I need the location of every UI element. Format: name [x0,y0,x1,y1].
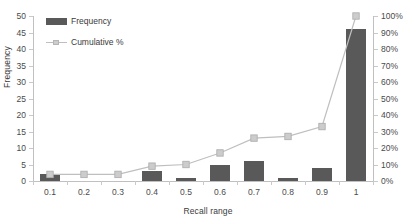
cumulative-marker [149,163,155,169]
legend-label-frequency: Frequency [71,16,111,26]
cumulative-marker [115,171,121,177]
cumulative-marker [285,133,291,139]
cumulative-marker [81,171,87,177]
pareto-chart: Frequency Recall range 05101520253035404… [0,0,416,223]
cumulative-marker [47,171,53,177]
cumulative-marker [319,123,325,129]
chart-legend: Frequency Cumulative % [46,14,123,56]
legend-label-cumulative: Cumulative % [71,37,123,47]
bar-swatch-icon [46,18,67,25]
cumulative-marker [251,135,257,141]
cumulative-marker [353,13,359,19]
legend-item-frequency: Frequency [46,14,123,28]
line-marker-swatch-icon [46,39,67,46]
cumulative-marker [217,150,223,156]
cumulative-marker [183,161,189,167]
legend-item-cumulative: Cumulative % [46,35,123,49]
